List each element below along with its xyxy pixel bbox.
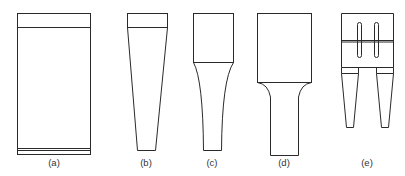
label-b: (b)	[131, 157, 161, 168]
horn-d	[258, 14, 312, 156]
horn-e	[342, 14, 394, 128]
horn-b	[128, 14, 168, 151]
horn-c	[194, 14, 234, 151]
label-a: (a)	[39, 157, 69, 168]
label-c: (c)	[197, 157, 227, 168]
label-d: (d)	[269, 157, 299, 168]
horn-diagram	[0, 0, 405, 176]
horn-a	[18, 14, 91, 155]
label-e: (e)	[352, 157, 382, 168]
